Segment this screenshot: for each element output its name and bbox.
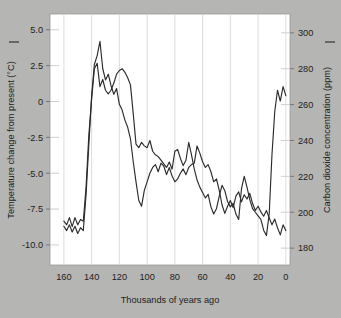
y2-tick-label-300: 300 <box>298 28 313 38</box>
y-tick-label-5.0: 5.0 <box>30 25 43 35</box>
x-tick-label-0: 0 <box>283 272 288 282</box>
y2-tick-label-220: 220 <box>298 172 313 182</box>
y2-tick-label-200: 200 <box>298 208 313 218</box>
y-tick-label-0: 0 <box>38 97 43 107</box>
x-tick-label-120: 120 <box>112 272 127 282</box>
x-tick-label-40: 40 <box>225 272 235 282</box>
x-tick-label-60: 60 <box>197 272 207 282</box>
y-tick-label-2.5: 2.5 <box>30 61 43 71</box>
x-tick-label-160: 160 <box>56 272 71 282</box>
x-tick-label-140: 140 <box>84 272 99 282</box>
y-tick-label--5.0: -5.0 <box>27 169 43 179</box>
y2-tick-label-180: 180 <box>298 243 313 253</box>
x-tick-label-20: 20 <box>253 272 263 282</box>
right-axis-tick-labels: 300280260240220200180 <box>298 28 313 253</box>
chart-figure: 5.02.50-2.5-5.0-7.5-10.0 300280260240220… <box>0 0 341 318</box>
y2-axis-title: Carbon dioxide concentration (ppm) <box>322 67 332 213</box>
left-axis-tick-labels: 5.02.50-2.5-5.0-7.5-10.0 <box>22 25 43 250</box>
y-tick-label--10.0: -10.0 <box>22 240 43 250</box>
y2-tick-label-240: 240 <box>298 136 313 146</box>
y2-tick-label-280: 280 <box>298 64 313 74</box>
y-tick-label--2.5: -2.5 <box>27 133 43 143</box>
y-tick-label--7.5: -7.5 <box>27 204 43 214</box>
x-axis-tick-labels: 160140120100806040200 <box>56 272 288 282</box>
x-axis-title: Thousands of years ago <box>121 295 220 305</box>
y2-tick-label-260: 260 <box>298 100 313 110</box>
co2-temperature-line-chart: 5.02.50-2.5-5.0-7.5-10.0 300280260240220… <box>0 0 341 318</box>
x-tick-label-80: 80 <box>170 272 180 282</box>
y-axis-title: Temperature change from present (°C) <box>6 61 16 218</box>
plot-background <box>50 14 290 265</box>
x-tick-label-100: 100 <box>139 272 154 282</box>
